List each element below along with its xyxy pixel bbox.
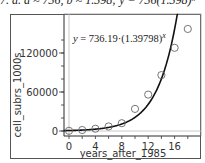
data-point [145,91,152,98]
data-point [184,25,191,32]
y-axis-label: cell_subrs_1000s [12,52,24,137]
y-tick-label: 120000 [20,48,58,59]
x-tick-label: 0 [66,141,72,152]
scatter-chart: 060000120000 0481216 y = 736.19·(1.39798… [0,0,205,163]
fit-curve [64,14,178,131]
x-axis-label: years_after_1985 [80,148,167,160]
y-tick-label: 0 [52,126,58,137]
equation-label: y = 736.19·(1.39798)x [72,31,166,45]
equation-text: y = 736.19·(1.39798)x [72,31,166,45]
data-point [171,44,178,51]
y-tick-label: 60000 [26,87,58,98]
y-axis: 060000120000 [20,14,64,137]
data-point [131,105,138,112]
x-tick-label: 16 [168,141,181,152]
